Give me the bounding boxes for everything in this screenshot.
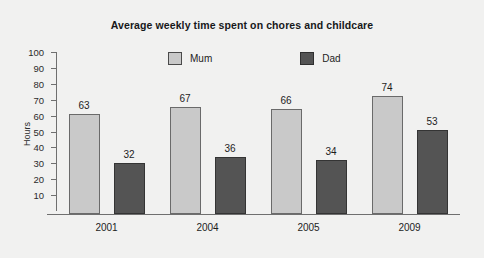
y-tick-label-70: 70 [33,94,44,105]
bar-value-label: 67 [179,93,190,104]
y-tick-label-80: 80 [33,78,44,89]
bar-value-label: 34 [325,146,336,157]
bar-wrap: 63 [69,114,100,214]
x-tick-label-2001: 2001 [56,222,157,233]
bar-wrap: 66 [271,109,302,214]
y-tick-label-90: 90 [33,62,44,73]
y-tick-label-40: 40 [33,142,44,153]
bar-dad-2005[interactable] [316,160,347,214]
bar-wrap: 34 [316,160,347,214]
bar-group: 63322001 [56,52,157,214]
plot-area: Hours 100908070605040302010 633220016736… [56,52,460,215]
bar-wrap: 67 [170,107,201,214]
bar-groups: 63322001673620046634200574532009 [56,52,460,214]
bar-dad-2004[interactable] [215,157,246,214]
bar-value-label: 53 [426,116,437,127]
x-axis-line [47,214,460,215]
y-tick-label-100: 100 [28,47,44,58]
y-tick-label-50: 50 [33,126,44,137]
bar-dad-2009[interactable] [417,130,448,214]
x-tick-label-2005: 2005 [258,222,359,233]
bar-value-label: 63 [78,100,89,111]
bar-mum-2004[interactable] [170,107,201,214]
y-tick-label-10: 10 [33,190,44,201]
bar-value-label: 32 [123,149,134,160]
bar-group: 66342005 [258,52,359,214]
chart-title: Average weekly time spent on chores and … [0,19,484,31]
bar-dad-2001[interactable] [114,163,145,214]
y-tick-label-60: 60 [33,110,44,121]
bar-wrap: 32 [114,163,145,214]
bar-value-label: 66 [280,95,291,106]
x-tick-label-2009: 2009 [359,222,460,233]
y-tick-label-30: 30 [33,158,44,169]
bar-wrap: 74 [372,96,403,214]
bar-mum-2009[interactable] [372,96,403,214]
bar-wrap: 36 [215,157,246,214]
x-tick-label-2004: 2004 [157,222,258,233]
y-tick-label-20: 20 [33,174,44,185]
bar-mum-2005[interactable] [271,109,302,214]
bar-group: 74532009 [359,52,460,214]
y-axis-title: Hours [22,121,32,145]
bar-value-label: 36 [224,143,235,154]
bar-mum-2001[interactable] [69,114,100,214]
bar-value-label: 74 [381,82,392,93]
bar-group: 67362004 [157,52,258,214]
chart-container: Average weekly time spent on chores and … [0,0,484,258]
bar-wrap: 53 [417,130,448,214]
